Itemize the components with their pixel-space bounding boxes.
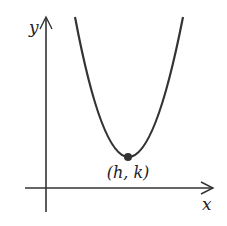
- parabola-curve: [75, 17, 183, 157]
- vertex-label: (h, k): [107, 163, 150, 182]
- vertex-point: [124, 153, 132, 161]
- y-axis: [40, 17, 52, 212]
- y-axis-label: y: [28, 17, 39, 37]
- parabola-diagram: y x (h, k): [0, 0, 227, 226]
- x-axis-label: x: [202, 194, 212, 214]
- x-axis: [25, 182, 213, 194]
